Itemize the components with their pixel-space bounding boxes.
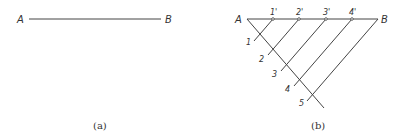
- label-a-start: A: [16, 14, 24, 25]
- parallel-line-3: [281, 19, 326, 71]
- parallel-line-2: [268, 19, 299, 55]
- label-2: 2: [259, 55, 264, 64]
- point-3p: [325, 18, 328, 21]
- label-4p: 4': [349, 8, 356, 17]
- diagram-canvas: A B (a) A B 1' 2' 3' 4' 1 2 3 4 5: [0, 0, 397, 139]
- point-1p: [272, 18, 275, 21]
- point-2p: [298, 18, 301, 21]
- label-1: 1: [246, 38, 251, 47]
- figure-a: A B (a): [16, 14, 172, 131]
- caption-b: (b): [311, 120, 325, 131]
- label-4: 4: [285, 85, 290, 94]
- label-2p: 2': [296, 8, 303, 17]
- label-5: 5: [299, 99, 304, 108]
- caption-a: (a): [93, 120, 107, 131]
- connect-line-b-5: [307, 19, 378, 101]
- point-4p: [351, 18, 354, 21]
- label-a-end: B: [165, 14, 172, 25]
- label-3: 3: [272, 70, 277, 79]
- label-b-end: B: [381, 14, 388, 25]
- label-b-start: A: [234, 14, 242, 25]
- parallel-line-4: [294, 19, 352, 86]
- figure-b: A B 1' 2' 3' 4' 1 2 3 4 5 (b): [234, 8, 388, 131]
- label-3p: 3': [323, 8, 330, 17]
- label-1p: 1': [270, 8, 277, 17]
